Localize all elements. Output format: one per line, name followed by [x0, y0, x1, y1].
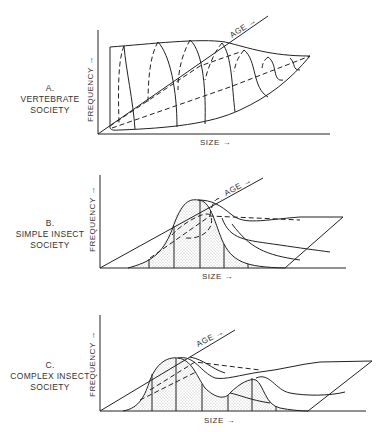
panel-b-title: B. SIMPLE INSECT SOCIETY: [2, 218, 98, 251]
panel-c-title: C. COMPLEX INSECT SOCIETY: [2, 360, 98, 393]
panel-c-title-line1: COMPLEX INSECT: [2, 371, 98, 382]
panel-b-age-axis-label: AGE →: [223, 176, 253, 198]
panel-b-letter: B.: [2, 218, 98, 229]
panel-a-x-axis-label: SIZE →: [200, 138, 231, 147]
panel-c-x-axis-label: SIZE →: [204, 416, 235, 425]
panel-c-letter: C.: [2, 360, 98, 371]
panel-b-title-line2: SOCIETY: [2, 240, 98, 251]
panel-c-plot: [100, 315, 372, 411]
panel-a-age-axis: [98, 16, 268, 134]
panel-a-letter: A.: [2, 83, 98, 94]
panel-a-title-line1: VERTEBRATE: [2, 94, 98, 105]
panel-c-title-line2: SOCIETY: [2, 382, 98, 393]
panel-a-age-axis-label: AGE →: [228, 16, 258, 40]
panel-a-title-line2: SOCIETY: [2, 105, 98, 116]
panel-b-title-line1: SIMPLE INSECT: [2, 229, 98, 240]
panel-a-surface-top: [110, 41, 310, 56]
panel-a-plot: [98, 16, 330, 134]
panel-b-x-axis-label: SIZE →: [202, 272, 233, 281]
panel-a-title: A. VERTEBRATE SOCIETY: [2, 83, 98, 116]
